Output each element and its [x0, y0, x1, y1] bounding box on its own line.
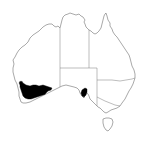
occurrence-dot [43, 92, 46, 95]
australia-map [0, 0, 148, 148]
occurrence-dot [19, 81, 23, 85]
distribution-map: Distribution map — Australia [0, 0, 148, 148]
tasmania-coastline [103, 118, 113, 131]
occurrence-dot [26, 95, 29, 98]
